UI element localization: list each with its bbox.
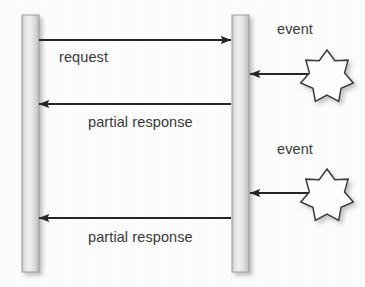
event-label-1: event <box>277 22 313 37</box>
event-burst-icon-event-2 <box>301 169 354 220</box>
event-label-2: event <box>277 142 313 157</box>
sequence-diagram-canvas: request partial response partial respons… <box>0 0 365 287</box>
event-burst-icon-event-1 <box>301 50 354 101</box>
right-activation-bar <box>232 15 249 272</box>
events-group <box>250 50 353 220</box>
message-label-partial-response-2: partial response <box>88 230 193 245</box>
message-label-request: request <box>59 50 108 65</box>
left-activation-bar <box>22 15 39 272</box>
message-label-partial-response-1: partial response <box>88 115 193 130</box>
